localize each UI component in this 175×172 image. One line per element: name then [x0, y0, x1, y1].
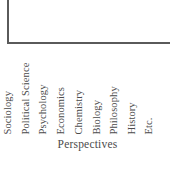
x-tick-label-history: History: [127, 102, 138, 134]
plot-area: [8, 0, 170, 44]
chart-figure: Sociology Political Science Psychology E…: [0, 0, 175, 172]
x-tick-label-political-science: Political Science: [21, 62, 32, 134]
x-tick-label-economics: Economics: [56, 86, 67, 134]
x-tick-label-etc: Etc.: [144, 117, 155, 134]
x-tick-label-philosophy: Philosophy: [109, 86, 120, 134]
x-tick-label-psychology: Psychology: [38, 84, 49, 134]
y-axis-line: [7, 0, 9, 44]
x-axis-tick-labels: Sociology Political Science Psychology E…: [0, 46, 175, 134]
x-tick-label-sociology: Sociology: [3, 91, 14, 135]
x-axis-line: [7, 42, 170, 44]
x-tick-label-chemistry: Chemistry: [74, 89, 85, 134]
x-axis-title: Perspectives: [0, 138, 175, 150]
x-tick-label-biology: Biology: [92, 99, 103, 134]
